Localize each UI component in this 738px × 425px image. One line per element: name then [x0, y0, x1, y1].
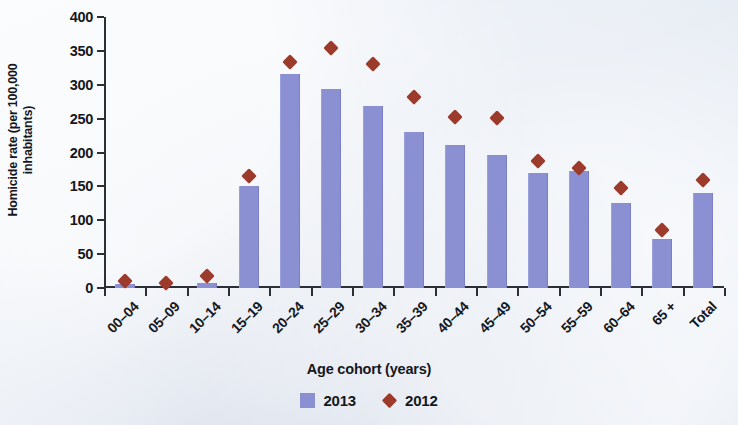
x-axis-tick [683, 288, 685, 296]
y-axis-tick-label: 100 [70, 212, 93, 228]
data-point-marker [282, 55, 298, 71]
legend-item[interactable]: 2013 [300, 392, 356, 409]
x-axis-tick [228, 288, 230, 296]
x-axis-tick-label: 30–34 [352, 298, 390, 336]
legend-label: 2013 [323, 392, 356, 409]
data-point-marker [158, 275, 174, 291]
x-axis-tick-label: 25–29 [310, 298, 348, 336]
data-point-marker [200, 268, 216, 284]
x-axis-tick-label: 35–39 [393, 298, 431, 336]
bar [652, 239, 672, 288]
bar [363, 106, 383, 288]
y-axis-tick-label: 0 [85, 280, 93, 296]
x-axis-tick-label: 60–64 [600, 298, 638, 336]
x-axis-tick-label: 05–09 [145, 298, 183, 336]
data-point-marker [406, 89, 422, 105]
x-axis-tick-label: Total [687, 298, 720, 331]
x-axis-tick-label: 50–54 [517, 298, 555, 336]
data-point-marker [365, 56, 381, 72]
data-point-marker [324, 40, 340, 56]
y-axis-tick [97, 16, 104, 18]
y-axis-tick [97, 84, 104, 86]
bar [611, 203, 631, 288]
x-axis-tick-label: 55–59 [558, 298, 596, 336]
plot-area: 050100150200250300350400 [104, 17, 724, 288]
x-axis-tick-label: 20–24 [269, 298, 307, 336]
y-axis-tick-label: 50 [77, 246, 93, 262]
y-axis-tick [97, 152, 104, 154]
legend-label: 2012 [405, 392, 438, 409]
x-axis-tick [145, 288, 147, 296]
x-axis-tick [311, 288, 313, 296]
y-axis-tick-label: 400 [70, 9, 93, 25]
x-axis-tick [104, 288, 106, 296]
y-axis-tick [97, 118, 104, 120]
x-axis-title: Age cohort (years) [0, 361, 738, 377]
bar [321, 89, 341, 288]
bar [487, 155, 507, 288]
bar [569, 171, 589, 288]
x-axis-tick [559, 288, 561, 296]
data-point-marker [654, 223, 670, 239]
x-axis-tick [724, 288, 726, 296]
legend-square-icon [300, 393, 315, 408]
y-axis-tick [97, 287, 104, 289]
bar [280, 74, 300, 288]
data-point-marker [489, 110, 505, 126]
x-axis-tick-label: 10–14 [186, 298, 224, 336]
y-axis-title: Homicide rate (per 100,000 inhabitants) [6, 30, 36, 250]
y-axis-tick [97, 185, 104, 187]
data-point-marker [241, 168, 257, 184]
x-axis-tick-label: 40–44 [434, 298, 472, 336]
x-axis-tick-label: 00–04 [104, 298, 142, 336]
y-axis-tick [97, 253, 104, 255]
bar [445, 145, 465, 288]
y-axis-tick-label: 300 [70, 77, 93, 93]
bar [528, 173, 548, 288]
data-point-marker [530, 154, 546, 170]
y-axis-tick [97, 219, 104, 221]
x-axis-tick [641, 288, 643, 296]
data-point-marker [696, 172, 712, 188]
x-axis-tick [393, 288, 395, 296]
y-axis-tick-label: 200 [70, 145, 93, 161]
x-axis-tick [269, 288, 271, 296]
x-axis-tick [600, 288, 602, 296]
x-axis-tick [352, 288, 354, 296]
x-axis-tick-label: 45–49 [476, 298, 514, 336]
x-axis-tick [476, 288, 478, 296]
x-axis-tick-label: 15–19 [228, 298, 266, 336]
chart-legend: 20132012 [0, 392, 738, 409]
x-axis-tick-label: 65 + [649, 298, 679, 328]
bar [404, 132, 424, 288]
bar [239, 186, 259, 288]
x-axis-tick [187, 288, 189, 296]
homicide-rate-bar-chart: Homicide rate (per 100,000 inhabitants) … [0, 0, 738, 425]
bar [693, 193, 713, 288]
legend-item[interactable]: 2012 [382, 392, 438, 409]
y-axis-line [104, 17, 106, 288]
y-axis-tick [97, 50, 104, 52]
data-point-marker [613, 180, 629, 196]
y-axis-tick-label: 150 [70, 178, 93, 194]
y-axis-tick-label: 250 [70, 111, 93, 127]
y-axis-tick-label: 350 [70, 43, 93, 59]
x-axis-tick [435, 288, 437, 296]
x-axis-tick [517, 288, 519, 296]
legend-diamond-icon [382, 393, 398, 409]
data-point-marker [448, 110, 464, 126]
